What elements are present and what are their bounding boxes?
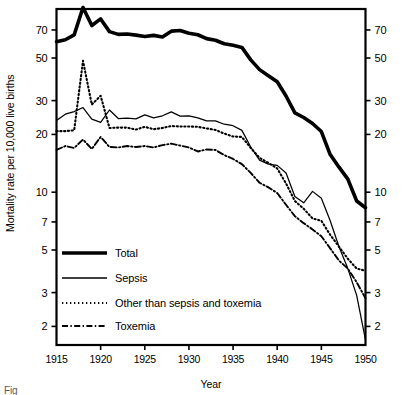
x-tick-label-1940: 1940 <box>266 353 289 365</box>
y-tick-label-left-10: 10 <box>36 186 48 198</box>
plot-frame <box>57 9 366 345</box>
y-tick-label-right-50: 50 <box>375 52 387 64</box>
series-line-toxemia <box>57 137 366 298</box>
legend-label-sepsis: Sepsis <box>115 272 148 284</box>
x-axis-title: Year <box>201 378 222 390</box>
y-tick-label-right-2: 2 <box>375 320 381 332</box>
y-tick-label-left-20: 20 <box>36 128 48 140</box>
x-tick-label-1915: 1915 <box>45 353 68 365</box>
y-tick-label-right-20: 20 <box>375 128 387 140</box>
mortality-rate-line-chart: 70503020107532 70503020107532 1915192019… <box>0 0 414 395</box>
y-tick-label-left-5: 5 <box>42 244 48 256</box>
y-tick-label-right-10: 10 <box>375 186 387 198</box>
y-tick-label-left-3: 3 <box>42 287 48 299</box>
x-tick-label-1920: 1920 <box>90 353 113 365</box>
y-tick-label-right-5: 5 <box>375 244 381 256</box>
x-tick-label-1930: 1930 <box>178 353 201 365</box>
legend-label-total: Total <box>115 247 138 259</box>
y-tick-label-right-7: 7 <box>375 216 381 228</box>
y-tick-label-left-7: 7 <box>42 216 48 228</box>
y-tick-label-left-70: 70 <box>36 24 48 36</box>
legend-label-toxemia: Toxemia <box>115 320 156 332</box>
x-tick-label-1945: 1945 <box>310 353 333 365</box>
series-line-other-than-sepsis-and-toxemia <box>57 61 366 271</box>
x-tick-label-1925: 1925 <box>134 353 157 365</box>
y-axis-title: Mortality rate per 10,000 live births <box>4 75 16 232</box>
figure-container: 70503020107532 70503020107532 1915192019… <box>0 0 414 395</box>
figure-caption: Fig <box>4 385 17 395</box>
y-tick-label-left-30: 30 <box>36 95 48 107</box>
y-tick-label-right-30: 30 <box>375 95 387 107</box>
y-axis-left-ticks: 70503020107532 <box>36 24 57 332</box>
y-axis-right-ticks: 70503020107532 <box>366 24 387 332</box>
y-tick-label-left-2: 2 <box>42 320 48 332</box>
y-tick-label-right-3: 3 <box>375 287 381 299</box>
y-tick-label-left-50: 50 <box>36 52 48 64</box>
legend-label-other: Other than sepsis and toxemia <box>115 297 262 309</box>
x-tick-label-1950: 1950 <box>354 353 377 365</box>
x-axis-ticks: 19151920192519301935194019451950 <box>45 345 377 365</box>
x-tick-label-1935: 1935 <box>222 353 245 365</box>
y-tick-label-right-70: 70 <box>375 24 387 36</box>
legend: Total Sepsis Other than sepsis and toxem… <box>62 247 262 332</box>
